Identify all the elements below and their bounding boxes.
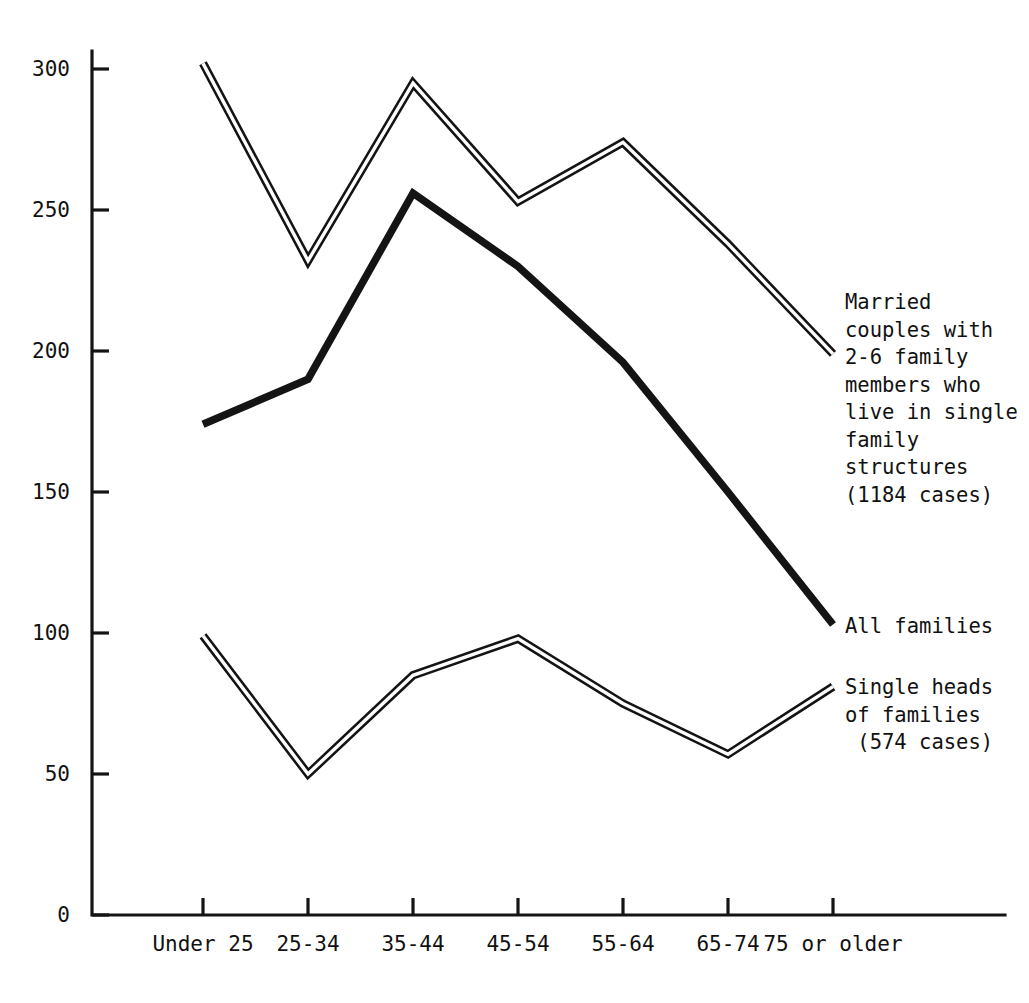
- x-tick-label: 25-34: [276, 932, 339, 956]
- series-1: [203, 63, 833, 353]
- legend-label-single-heads: Single heads of families (574 cases): [845, 674, 993, 757]
- y-tick-labels-group: 050100150200250300: [32, 57, 70, 927]
- chart-container: 050100150200250300 Under 2525-3435-4445-…: [0, 0, 1029, 1003]
- x-tick-label: 35-44: [381, 932, 444, 956]
- data-series-group: [203, 63, 833, 774]
- legend-label-married-couples: Married couples with 2-6 family members …: [845, 289, 1018, 509]
- y-tick-label: 250: [32, 198, 70, 222]
- y-tick-label: 300: [32, 57, 70, 81]
- y-tick-label: 0: [57, 903, 70, 927]
- x-tick-label: 45-54: [486, 932, 549, 956]
- x-tick-label: 55-64: [591, 932, 654, 956]
- series-line-casing: [203, 636, 833, 774]
- legend-label-all-families: All families: [845, 613, 993, 641]
- y-tick-label: 200: [32, 339, 70, 363]
- x-tick-label: 75 or older: [763, 932, 902, 956]
- x-tick-labels-group: Under 2525-3435-4445-5455-6465-7475 or o…: [152, 932, 902, 956]
- series-line-core: [203, 63, 833, 353]
- series-line-casing: [203, 63, 833, 353]
- x-tick-label: 65-74: [696, 932, 759, 956]
- tick-marks-group: [92, 69, 833, 915]
- y-tick-label: 100: [32, 621, 70, 645]
- y-tick-label: 50: [45, 762, 70, 786]
- series-3: [203, 636, 833, 774]
- x-tick-label: Under 25: [152, 932, 253, 956]
- y-tick-label: 150: [32, 480, 70, 504]
